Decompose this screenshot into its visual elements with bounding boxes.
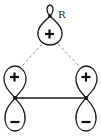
top-orbital: R	[38, 5, 66, 45]
left-orbital-plus-lobe	[4, 66, 26, 98]
top-nucleus-dot	[48, 14, 52, 18]
orbital-diagram: R	[0, 0, 101, 137]
right-nucleus-dot	[84, 96, 88, 100]
substituent-label: R	[58, 9, 66, 20]
right-orbital-minus-lobe	[76, 98, 96, 131]
left-nucleus-dot	[13, 96, 17, 100]
left-orbital-minus-lobe	[5, 98, 25, 131]
dashed-interaction-right	[58, 44, 79, 66]
dashed-interaction-left	[22, 44, 42, 66]
right-orbital-plus-lobe	[76, 66, 97, 98]
